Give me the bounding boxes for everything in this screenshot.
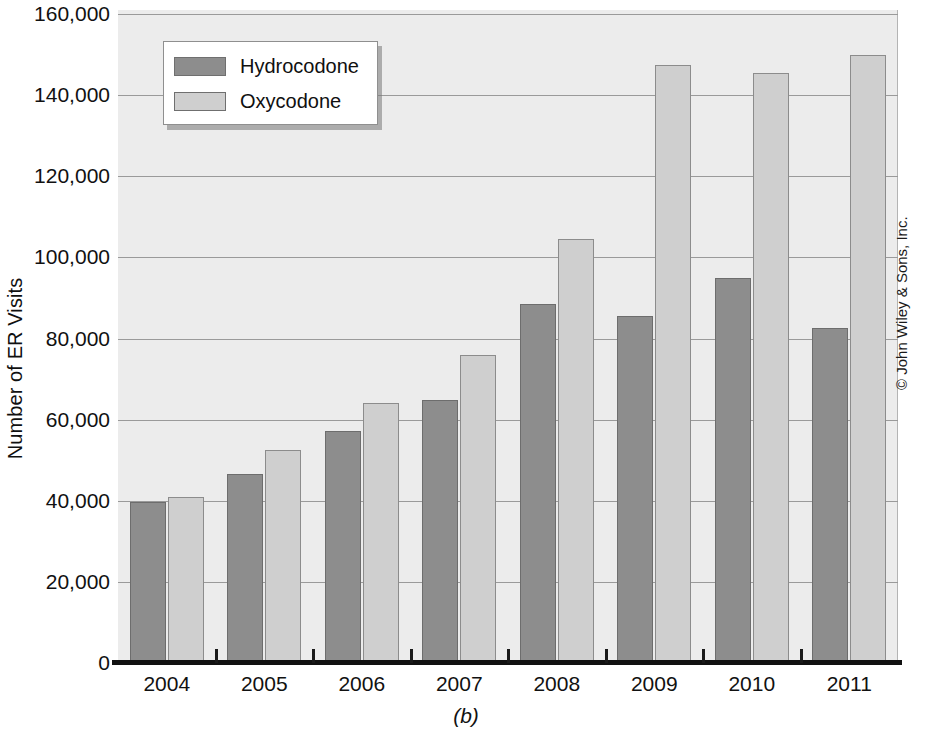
x-axis-tick <box>800 649 803 663</box>
chart-figure: Number of ER Visits 020,00040,00060,0008… <box>0 0 932 737</box>
bar-hydrocodone-2004[interactable] <box>130 502 166 663</box>
bar-oxycodone-2008[interactable] <box>558 239 594 663</box>
y-axis-tick-labels: 020,00040,00060,00080,000100,000120,0001… <box>0 0 110 737</box>
x-axis-label-2011: 2011 <box>827 672 872 696</box>
y-axis-tick-label: 100,000 <box>0 245 110 269</box>
y-axis-tick-label: 20,000 <box>0 570 110 594</box>
copyright-notice: © John Wiley & Sons, Inc. <box>893 216 910 390</box>
bar-hydrocodone-2009[interactable] <box>617 316 653 663</box>
x-axis-label-2005: 2005 <box>241 672 288 696</box>
gridline <box>118 14 898 15</box>
x-axis-label-2004: 2004 <box>143 672 190 696</box>
x-axis-tick <box>312 649 315 663</box>
x-axis-tick <box>605 649 608 663</box>
x-axis-label-2007: 2007 <box>436 672 483 696</box>
figure-caption: (b) <box>0 704 932 728</box>
x-axis-label-2010: 2010 <box>728 672 775 696</box>
x-axis-tick <box>410 649 413 663</box>
y-axis-tick-label: 160,000 <box>0 2 110 26</box>
legend-swatch-hydrocodone <box>174 57 226 76</box>
legend-item-hydrocodone[interactable]: Hydrocodone <box>174 49 367 84</box>
bar-oxycodone-2009[interactable] <box>655 65 691 663</box>
bar-oxycodone-2010[interactable] <box>753 73 789 663</box>
bar-hydrocodone-2005[interactable] <box>227 474 263 663</box>
bar-oxycodone-2006[interactable] <box>363 403 399 663</box>
x-axis-tick <box>507 649 510 663</box>
bar-oxycodone-2007[interactable] <box>460 355 496 663</box>
legend-item-oxycodone[interactable]: Oxycodone <box>174 84 367 119</box>
legend-swatch-oxycodone <box>174 92 226 111</box>
bar-oxycodone-2005[interactable] <box>265 450 301 663</box>
y-axis-tick-label: 140,000 <box>0 83 110 107</box>
y-axis-tick-label: 0 <box>0 651 110 675</box>
x-axis-label-2008: 2008 <box>533 672 580 696</box>
bar-oxycodone-2004[interactable] <box>168 497 204 663</box>
y-axis-tick-label: 120,000 <box>0 164 110 188</box>
bar-hydrocodone-2006[interactable] <box>325 431 361 663</box>
y-axis-tick-label: 60,000 <box>0 408 110 432</box>
chart-legend: Hydrocodone Oxycodone <box>163 41 378 125</box>
x-axis-tick <box>215 649 218 663</box>
y-axis-tick-label: 80,000 <box>0 327 110 351</box>
bar-hydrocodone-2011[interactable] <box>812 328 848 663</box>
bar-hydrocodone-2007[interactable] <box>422 400 458 663</box>
x-axis-label-2006: 2006 <box>338 672 385 696</box>
y-axis-tick-label: 40,000 <box>0 489 110 513</box>
bar-hydrocodone-2010[interactable] <box>715 278 751 663</box>
legend-label-hydrocodone: Hydrocodone <box>240 55 359 78</box>
bar-hydrocodone-2008[interactable] <box>520 304 556 663</box>
x-axis-label-2009: 2009 <box>631 672 678 696</box>
legend-label-oxycodone: Oxycodone <box>240 90 341 113</box>
x-axis-tick <box>702 649 705 663</box>
bar-oxycodone-2011[interactable] <box>850 55 886 663</box>
